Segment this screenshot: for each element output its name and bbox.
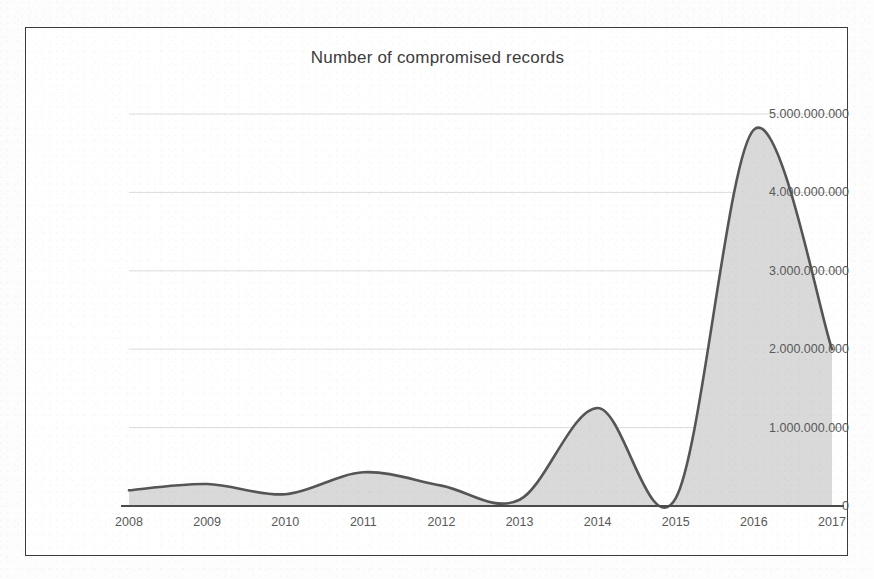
figure-frame: Number of compromised records 01.000.000… — [25, 27, 848, 556]
area-chart-svg — [26, 28, 849, 557]
area-fill-path — [129, 128, 832, 508]
plot-area: 01.000.000.0002.000.000.0003.000.000.000… — [26, 28, 849, 557]
scanned-page: Number of compromised records 01.000.000… — [0, 0, 874, 579]
